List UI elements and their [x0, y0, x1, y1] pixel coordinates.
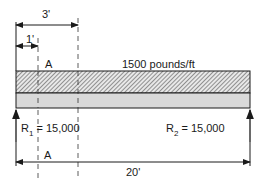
dimension-1ft-label: 1' [26, 34, 34, 45]
dimension-3ft-label: 3' [42, 9, 50, 20]
beam-diagram [0, 0, 264, 189]
beam-body [16, 93, 250, 108]
section-label-upper: A [45, 59, 52, 70]
load-label: 1500 pounds/ft [122, 59, 195, 70]
reaction-r2-label: R2 = 15,000 [166, 123, 225, 134]
section-label-lower: A [44, 150, 51, 161]
reaction-r1-label: R1 = 15,000 [21, 123, 80, 134]
span-dimension-label: 20' [126, 167, 140, 178]
distributed-load-region [16, 71, 250, 93]
